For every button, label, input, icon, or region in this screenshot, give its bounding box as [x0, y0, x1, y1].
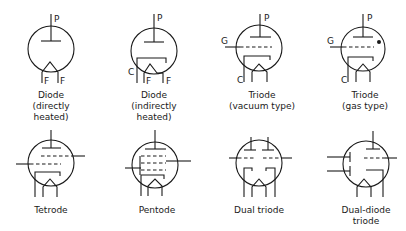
pin-label: C: [128, 67, 134, 77]
pin-label: F: [166, 76, 171, 86]
symbol-label: Triode: [247, 90, 276, 100]
symbol-label: heated): [136, 112, 171, 122]
tetrode-symbol: Tetrode: [16, 130, 85, 215]
symbol-label: (vacuum type): [229, 101, 295, 111]
pentode-symbol: Pentode: [125, 130, 191, 215]
symbol-label: Diode: [38, 90, 65, 100]
diode-directly-heated-symbol: P F F Diode (directly heated): [28, 14, 74, 122]
diode-indirectly-heated-symbol: P C F F Diode (indirectly heated): [128, 13, 177, 122]
triode-gas-symbol: P G C Triode (gas type): [327, 13, 388, 111]
symbol-label: Triode: [350, 90, 379, 100]
dual-triode-symbol: Dual triode: [229, 137, 292, 215]
triode-vacuum-symbol: P G C Triode (vacuum type): [221, 13, 295, 111]
symbol-label: Diode: [141, 90, 168, 100]
symbol-label: Pentode: [139, 205, 176, 215]
symbol-label: Tetrode: [33, 205, 68, 215]
pin-label: P: [157, 13, 163, 23]
symbol-label: triode: [353, 216, 380, 226]
symbol-label: (gas type): [342, 101, 388, 111]
symbol-label: (directly: [32, 101, 70, 111]
symbol-label: Dual-diode: [342, 205, 391, 215]
symbol-label: heated): [33, 112, 68, 122]
pin-label: P: [264, 13, 270, 23]
pin-label: F: [60, 76, 65, 86]
pin-label: P: [54, 14, 60, 24]
pin-label: C: [237, 75, 243, 85]
pin-label: G: [221, 36, 228, 46]
pin-label: P: [367, 13, 373, 23]
symbol-label: Dual triode: [234, 205, 284, 215]
pin-label: C: [341, 75, 347, 85]
gas-dot-icon: [377, 40, 381, 44]
symbol-label: (indirectly: [131, 101, 177, 111]
pin-label: G: [327, 36, 334, 46]
dual-diode-triode-symbol: Dual-diode triode: [327, 131, 397, 226]
pin-label: F: [44, 76, 49, 86]
pin-label: F: [146, 76, 151, 86]
tube-symbols-diagram: P F F Diode (directly heated) P C F F Di…: [0, 0, 406, 231]
